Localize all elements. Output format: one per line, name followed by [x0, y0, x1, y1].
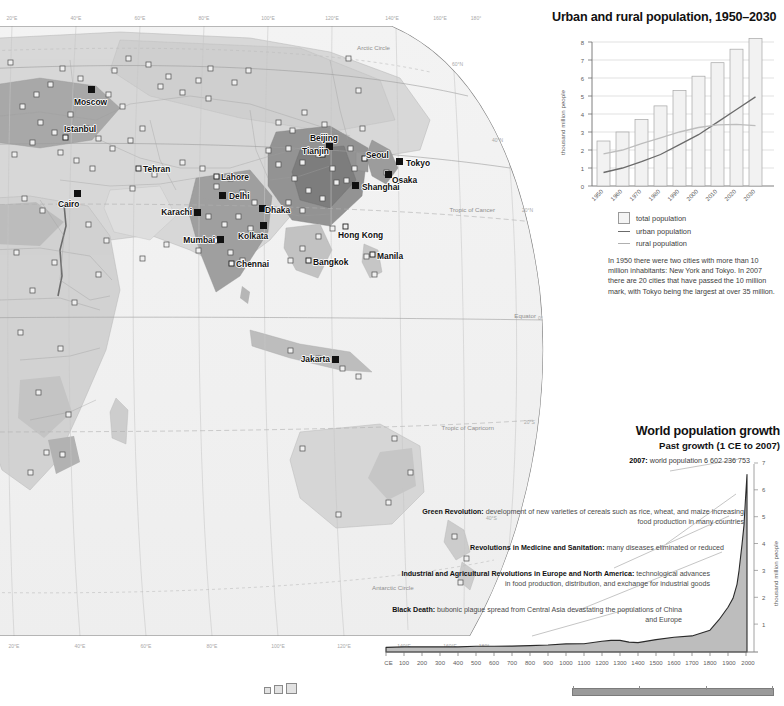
- legend-label: rural population: [636, 239, 687, 248]
- x-tick-label: 1970: [629, 188, 643, 202]
- bar-1970: [635, 119, 648, 186]
- y-tick-label: 4: [762, 541, 766, 547]
- city-label-lahore: Lahore: [221, 172, 249, 182]
- map-scale-bar: [572, 688, 774, 696]
- bar-1960: [616, 132, 629, 186]
- population-2007-year: 2007:: [629, 456, 647, 465]
- city-label-tianjin: Tianjin: [302, 146, 329, 156]
- bar-2030: [749, 38, 762, 186]
- lon-label-bottom: 120°E: [337, 643, 351, 649]
- urban-rural-population-panel: Urban and rural population, 1950–2030: [552, 6, 780, 306]
- geo-line-label-equator: Equator: [514, 312, 536, 319]
- x-tick-label: 1200: [595, 660, 609, 666]
- legend-swatch-line-light: [618, 243, 630, 244]
- map-city[interactable]: Bangkok: [306, 257, 349, 267]
- legend-item-urban-population[interactable]: urban population: [618, 227, 691, 236]
- y-tick-label: 5: [762, 514, 766, 520]
- city-label-istanbul: Istanbul: [64, 124, 96, 134]
- lon-label-bottom: 20°E: [9, 643, 21, 649]
- x-tick-label: 1800: [703, 660, 717, 666]
- annotation-black-death: Black Death: bubonic plague spread from …: [392, 606, 682, 626]
- city-label-dhaka: Dhaka: [265, 205, 290, 215]
- legend-swatch-line-dark: [618, 231, 630, 232]
- bar-1990: [673, 91, 686, 186]
- x-tick-label: 2030: [743, 188, 757, 202]
- city-label-chennai: Chennai: [236, 259, 269, 269]
- lon-label-top: 80°E: [199, 15, 211, 21]
- x-tick-label: 700: [507, 660, 518, 666]
- city-label-jakarta: Jakarta: [301, 354, 331, 364]
- annotation-title: Revolutions in Medicine and Sanitation:: [470, 544, 604, 552]
- y-tick-label: 6: [581, 76, 585, 82]
- annotation-text: development of new varieties of cereals …: [486, 508, 744, 526]
- x-tick-label: 1100: [578, 660, 592, 666]
- y-tick-label: 5: [581, 94, 585, 100]
- x-tick-label: 1700: [685, 660, 699, 666]
- x-tick-label: 2000: [741, 660, 755, 666]
- y-tick-label: 7: [762, 460, 766, 466]
- x-tick-label: 1300: [613, 660, 627, 666]
- x-tick-label: 1900: [722, 660, 736, 666]
- chart-y-ticks: 8 7 6 5 4 3 2 1 0: [581, 40, 592, 190]
- city-small-icon: [264, 687, 271, 694]
- x-tick-label: 1400: [631, 660, 645, 666]
- x-tick-label: 400: [453, 660, 464, 666]
- growth-y-axis-title: thousand million people: [772, 540, 779, 606]
- map-city[interactable]: Seoul: [362, 150, 389, 161]
- lon-label-top: 100°E: [261, 15, 275, 21]
- y-tick-label: 0: [581, 184, 585, 190]
- city-label-karachi: Karachi: [161, 207, 192, 217]
- city-label-manila: Manila: [377, 251, 403, 261]
- map-city[interactable]: Tianjin: [302, 146, 329, 157]
- x-tick-label: 1600: [667, 660, 681, 666]
- x-tick-label: 2010: [705, 188, 719, 202]
- city-large-icon: [286, 683, 297, 694]
- lon-label-bottom: 60°E: [141, 643, 153, 649]
- city-label-mumbai: Mumbai: [183, 235, 215, 245]
- urban-rural-chart-canvas[interactable]: 8 7 6 5 4 3 2 1 0 thousand million peopl…: [552, 30, 780, 220]
- map-longitude-labels-top: 20°E 40°E 60°E 80°E 100°E 120°E 140°E 16…: [7, 15, 482, 21]
- lon-label-bottom: 80°E: [207, 643, 219, 649]
- x-tick-label: 1000: [559, 660, 573, 666]
- map-city-size-legend[interactable]: [264, 683, 297, 694]
- bar-1980: [654, 106, 667, 186]
- annotation-industrial-agricultural: Industrial and Agricultural Revolutions …: [398, 570, 710, 590]
- geo-line-label-tropic-cancer: Tropic of Cancer: [449, 206, 495, 213]
- y-tick-label: 2: [762, 595, 766, 601]
- urban-rural-chart-title: Urban and rural population, 1950–2030: [552, 10, 776, 24]
- y-tick-label: 1: [762, 622, 766, 628]
- x-tick-label: 800: [525, 660, 536, 666]
- growth-y-ticks: [754, 463, 758, 624]
- lon-label-top: 120°E: [325, 15, 339, 21]
- bar-2020: [730, 49, 743, 186]
- x-tick-label: 1960: [610, 188, 624, 202]
- x-tick-label: 2000: [686, 188, 700, 202]
- population-2007-value: world population 6 602 236 753: [650, 456, 750, 465]
- lat-label: 40°N: [492, 137, 504, 143]
- city-label-bangkok: Bangkok: [313, 257, 349, 267]
- city-label-tehran: Tehran: [143, 164, 170, 174]
- growth-y-tick-labels: 1 2 3 4 5 6 7: [762, 460, 766, 627]
- urban-rural-caption: In 1950 there were two cities with more …: [608, 256, 776, 297]
- annotation-green-revolution: Green Revolution: development of new var…: [414, 508, 744, 528]
- growth-x-ticks: [386, 652, 746, 656]
- legend-label: total population: [636, 214, 686, 223]
- x-tick-label: 1950: [591, 188, 605, 202]
- x-tick-label: 1990: [667, 188, 681, 202]
- city-label-shanghai: Shanghai: [362, 182, 400, 192]
- y-tick-label: 7: [581, 58, 585, 64]
- lat-label: 0°: [538, 315, 543, 321]
- lon-label-top: 60°E: [135, 15, 147, 21]
- legend-item-total-population[interactable]: total population: [618, 212, 691, 224]
- x-tick-label: 900: [543, 660, 554, 666]
- legend-item-rural-population[interactable]: rural population: [618, 239, 691, 248]
- city-label-tokyo: Tokyo: [406, 158, 430, 168]
- lon-label-top: 140°E: [385, 15, 399, 21]
- legend-swatch-box: [618, 212, 630, 224]
- growth-chart-canvas[interactable]: 1 CE 100 200 300 400 500 600 700 800 900…: [384, 456, 782, 672]
- lon-label-bottom: 40°E: [75, 643, 87, 649]
- chart-bars[interactable]: [597, 38, 762, 186]
- annotation-text: many diseases eliminated or reduced: [606, 544, 724, 552]
- chart-x-ticks: 1950 1960 1970 1980 1990 2000 2010 2020 …: [591, 188, 757, 202]
- lon-label-top: 180°: [471, 15, 481, 21]
